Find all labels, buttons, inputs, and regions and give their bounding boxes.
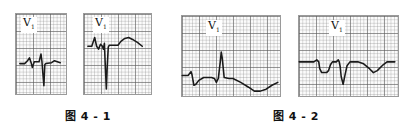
figure-caption-4-2: 图 4 - 2	[273, 107, 319, 123]
ecg-panel-4-2-a: V1	[181, 15, 281, 97]
ecg-panel-4-1-a: V1	[15, 13, 67, 95]
ecg-trace	[299, 16, 398, 96]
figure-caption-4-1: 图 4 - 1	[65, 107, 111, 123]
ecg-panel-4-1-b: V1	[83, 13, 152, 95]
ecg-trace	[16, 14, 66, 94]
ecg-panel-4-2-b: V1	[298, 15, 399, 97]
ecg-trace	[84, 14, 151, 94]
ecg-trace	[182, 16, 280, 96]
